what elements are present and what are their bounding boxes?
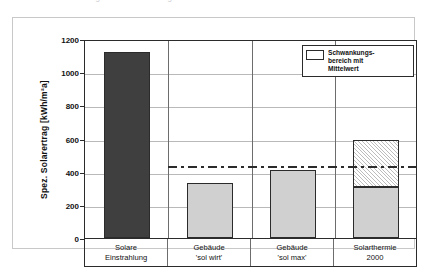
mean-value-line bbox=[168, 167, 416, 168]
bar-0[interactable] bbox=[104, 52, 150, 238]
x-axis-category-band: SolareEinstrahlungGebäude'sol wirt'Gebäu… bbox=[84, 239, 417, 267]
x-category-3-line-0: Solarthermie bbox=[353, 243, 396, 253]
y-tick-label-200: 200 bbox=[66, 201, 79, 210]
legend: Schwankungs-bereich mitMittelwert bbox=[302, 45, 414, 77]
legend-label-line-0: Schwankungs- bbox=[328, 49, 375, 57]
cropped-caption-text: Bild Abb. Diagramm Solarertrag bbox=[42, 0, 173, 2]
bar-3[interactable] bbox=[353, 187, 399, 238]
x-category-3: Solarthermie2000 bbox=[334, 239, 416, 266]
plot-area: Schwankungs-bereich mitMittelwert bbox=[84, 40, 417, 239]
legend-label-line-2: Mittelwert bbox=[328, 65, 375, 73]
x-category-2: Gebäude'sol max' bbox=[251, 239, 334, 266]
panel-separator-2 bbox=[252, 41, 253, 238]
panel-separator-1 bbox=[168, 41, 169, 238]
legend-label: Schwankungs-bereich mitMittelwert bbox=[328, 49, 375, 73]
plot-inner: Schwankungs-bereich mitMittelwert bbox=[85, 41, 416, 238]
y-axis-ticks: 020040060080010001200 bbox=[13, 40, 84, 239]
x-category-2-line-1: 'sol max' bbox=[277, 253, 306, 263]
bar-1[interactable] bbox=[187, 183, 233, 238]
cropped-caption-sliver: Bild Abb. Diagramm Solarertrag bbox=[0, 0, 427, 12]
y-tick-label-0: 0 bbox=[75, 235, 79, 244]
x-category-1-line-1: 'sol wirt' bbox=[196, 253, 223, 263]
y-tick-label-800: 800 bbox=[66, 102, 79, 111]
x-category-2-line-0: Gebäude bbox=[276, 243, 307, 253]
y-tick-label-1000: 1000 bbox=[61, 69, 79, 78]
x-category-3-line-1: 2000 bbox=[367, 253, 384, 263]
y-tick-label-600: 600 bbox=[66, 135, 79, 144]
bar-range-3[interactable] bbox=[353, 140, 399, 186]
legend-range-swatch-icon bbox=[306, 50, 324, 60]
bar-2[interactable] bbox=[270, 170, 316, 238]
x-category-1: Gebäude'sol wirt' bbox=[168, 239, 251, 266]
y-tick-label-400: 400 bbox=[66, 168, 79, 177]
x-category-0: SolareEinstrahlung bbox=[85, 239, 168, 266]
x-category-0-line-0: Solare bbox=[115, 243, 137, 253]
legend-label-line-1: bereich mit bbox=[328, 57, 375, 65]
x-category-0-line-1: Einstrahlung bbox=[105, 253, 147, 263]
x-category-1-line-0: Gebäude bbox=[193, 243, 224, 253]
y-tick-label-1200: 1200 bbox=[61, 36, 79, 45]
figure-card: Spez. Solarertrag [kWh/m²a] 020040060080… bbox=[12, 17, 415, 249]
